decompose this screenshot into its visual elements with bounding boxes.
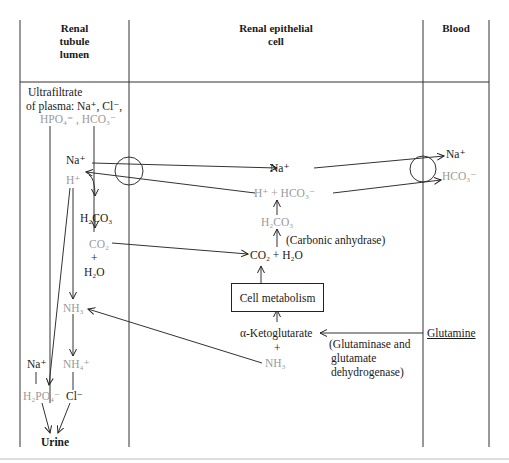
header-blood: Blood <box>423 22 489 35</box>
lumen-nh4: NH₄⁺ <box>63 358 90 371</box>
ultrafiltrate-line3: HPO₄⁼ , HCO₃⁻ <box>40 113 116 126</box>
cell-h2co3: H₂CO₃ <box>261 216 293 229</box>
enzyme-carbonic-anhydrase: (Carbonic anhydrase) <box>286 234 385 247</box>
header-lumen-line2: tubule <box>20 35 129 48</box>
lumen-cl: Cl⁻ <box>66 390 83 403</box>
header-cell-line2: cell <box>129 35 423 48</box>
cell-h-hco3: H⁺ + HCO₃⁻ <box>254 187 315 200</box>
cell-plus: + <box>274 342 281 355</box>
enzyme-glutaminase-line2: glutamate <box>331 352 376 365</box>
cell-co2-h2o: CO₂ + H₂O <box>250 249 303 262</box>
header-lumen-line3: lumen <box>20 48 129 61</box>
urine-label: Urine <box>41 436 69 449</box>
lumen-h2po4: H₂PO₄⁻ <box>23 390 60 403</box>
lumen-h2co3: H₂CO₃ <box>80 212 112 225</box>
alpha-ketoglutarate: α-Ketoglutarate <box>240 327 312 340</box>
lumen-na-lower: Na⁺ <box>27 358 46 371</box>
lumen-nh3: NH₃ <box>63 302 84 315</box>
lumen-h2o: H₂O <box>84 266 105 279</box>
cell-nh3: NH₃ <box>265 357 286 370</box>
lumen-na: Na⁺ <box>66 154 85 167</box>
lumen-co2: CO₂ <box>89 238 109 251</box>
cell-na: Na⁺ <box>270 162 289 175</box>
header-lumen: Renal tubule lumen <box>20 22 129 61</box>
lumen-h: H⁺ <box>66 174 80 187</box>
ultrafiltrate-line1: Ultrafiltrate <box>28 86 82 99</box>
cell-metabolism-box: Cell metabolism <box>231 283 324 312</box>
blood-glutamine: Glutamine <box>427 327 476 340</box>
header-cell-line1: Renal epithelial <box>129 22 423 35</box>
lumen-plus: + <box>91 252 98 265</box>
ultrafiltrate-line2: of plasma: Na⁺, Cl⁻, <box>26 100 122 113</box>
blood-na: Na⁺ <box>446 148 465 161</box>
blood-hco3: HCO₃⁻ <box>442 170 476 183</box>
header-blood-line1: Blood <box>423 22 489 35</box>
header-lumen-line1: Renal <box>20 22 129 35</box>
enzyme-glutaminase-line1: (Glutaminase and <box>329 338 410 351</box>
enzyme-glutaminase-line3: dehydrogenase) <box>331 366 404 379</box>
header-cell: Renal epithelial cell <box>129 22 423 48</box>
